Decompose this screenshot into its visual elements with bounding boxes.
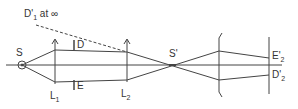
label-d2-main: D' <box>272 69 281 80</box>
label-source: S <box>16 48 23 58</box>
label-lens2: L2 <box>121 89 130 101</box>
label-d1-suffix: at ∞ <box>37 8 58 19</box>
label-d2: D'2 <box>272 70 285 82</box>
label-image-point: S' <box>169 49 178 59</box>
ray-upper-s-l1 <box>22 50 55 65</box>
ray-upper-l3-screen <box>219 51 269 58</box>
label-d2-sub: 2 <box>281 75 285 82</box>
label-lens2-sub: 2 <box>127 94 131 101</box>
label-d1-main: D' <box>24 8 33 19</box>
label-e2-main: E' <box>272 50 281 61</box>
label-stop-d: D <box>77 40 84 50</box>
label-lens1: L1 <box>50 91 59 103</box>
ray-lower-l3-screen <box>219 75 269 80</box>
label-e2-sub: 2 <box>281 56 285 63</box>
label-stop-e: E <box>77 81 84 91</box>
ray-upper-l1-l2 <box>55 50 127 52</box>
ray-lower-l1-l2 <box>55 80 127 82</box>
ray-lower-s-l1 <box>22 65 55 82</box>
label-lens1-sub: 1 <box>56 96 60 103</box>
label-d1-infinity: D'1 at ∞ <box>24 9 58 21</box>
label-e2: E'2 <box>272 51 285 63</box>
